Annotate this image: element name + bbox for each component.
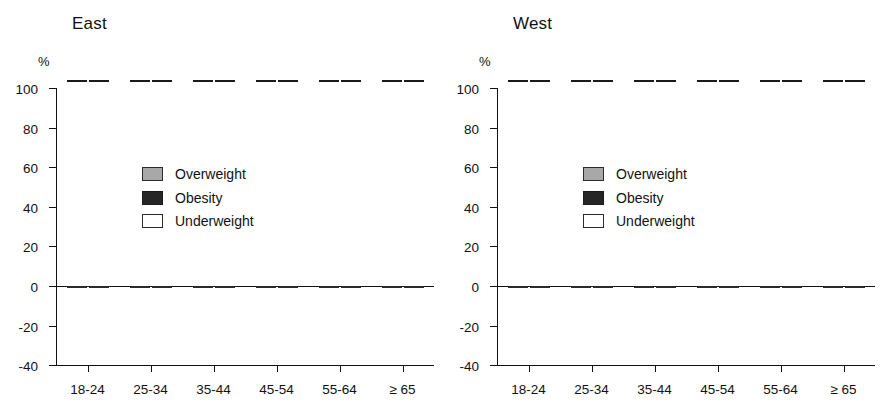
- y-axis-tick-label: 60: [464, 161, 479, 176]
- y-unit-label-east: %: [38, 54, 50, 69]
- bar-segment-underweight: [404, 286, 424, 288]
- x-axis-tick: [718, 365, 719, 372]
- y-axis-tick-label: -20: [459, 319, 479, 334]
- bar-segment-underweight: [130, 286, 150, 288]
- x-axis-label: 55-64: [322, 382, 357, 397]
- bar-segment-underweight: [193, 286, 213, 288]
- panel-east: East % 100806040200-20-40 Overweight Obe…: [0, 0, 442, 409]
- bar-18-24-series2: [89, 80, 109, 365]
- y-axis-tick: 40: [490, 207, 497, 208]
- legend-swatch-obesity-icon: [583, 191, 604, 205]
- bar-segment-underweight: [760, 286, 780, 288]
- legend-label-overweight: Overweight: [616, 166, 687, 182]
- bar-segment-underweight: [697, 286, 717, 288]
- x-axis-tick: [214, 365, 215, 372]
- bar-segment-obesity: [593, 80, 613, 82]
- y-axis-tick-label: 80: [23, 121, 38, 136]
- legend-label-underweight: Underweight: [616, 213, 695, 229]
- bar-55-64-series2: [782, 80, 802, 365]
- bar-segment-underweight: [215, 286, 235, 288]
- bar-segment-obesity: [130, 80, 150, 82]
- bar-segment-obesity: [760, 80, 780, 82]
- x-axis-label: ≥ 65: [389, 382, 415, 397]
- legend-label-overweight: Overweight: [175, 166, 246, 182]
- y-axis-tick-label: 20: [464, 240, 479, 255]
- bar-55-64-series1: [319, 80, 339, 365]
- legend-swatch-overweight-icon: [583, 167, 604, 181]
- panel-title-west: West: [513, 14, 552, 34]
- bar-segment-underweight: [845, 286, 865, 288]
- y-axis-tick-label: 20: [23, 240, 38, 255]
- x-axis-label: 35-44: [637, 382, 672, 397]
- bar-segment-obesity: [382, 80, 402, 82]
- y-axis-tick-label: -40: [18, 359, 38, 374]
- y-axis-tick: 0: [490, 286, 497, 287]
- bar-segment-obesity: [697, 80, 717, 82]
- legend-item-overweight: Overweight: [583, 164, 695, 184]
- bar-segment-underweight: [341, 286, 361, 288]
- legend-swatch-obesity-icon: [142, 191, 163, 205]
- x-axis-label: 35-44: [196, 382, 231, 397]
- bar-segment-underweight: [593, 286, 613, 288]
- y-axis-tick: 80: [49, 128, 56, 129]
- y-axis-tick: 20: [490, 246, 497, 247]
- bar-segment-underweight: [782, 286, 802, 288]
- x-axis-label: 25-34: [133, 382, 168, 397]
- y-axis-tick: 100: [49, 88, 56, 89]
- bar-segment-obesity: [530, 80, 550, 82]
- plot-area-west: 100806040200-20-40 Overweight Obesity Un…: [497, 80, 875, 375]
- bar-segment-obesity: [845, 80, 865, 82]
- legend-item-underweight: Underweight: [142, 211, 254, 231]
- plot-area-east: 100806040200-20-40 Overweight Obesity Un…: [56, 80, 434, 375]
- y-unit-label-west: %: [479, 54, 491, 69]
- y-axis-tick-label: 100: [15, 82, 38, 97]
- bar-segment-obesity: [278, 80, 298, 82]
- bar-18-24-series1: [67, 80, 87, 365]
- x-axis-tick: [844, 365, 845, 372]
- y-axis-tick: 60: [49, 167, 56, 168]
- bar-18-24-series1: [508, 80, 528, 365]
- bar-segment-obesity: [634, 80, 654, 82]
- legend-item-underweight: Underweight: [583, 211, 695, 231]
- x-axis-label: 18-24: [511, 382, 546, 397]
- bar-segment-obesity: [67, 80, 87, 82]
- x-axis-label: 18-24: [70, 382, 105, 397]
- bar-segment-underweight: [382, 286, 402, 288]
- legend-label-obesity: Obesity: [175, 190, 222, 206]
- bar-65-series2: [845, 80, 865, 365]
- y-axis-tick: 40: [49, 207, 56, 208]
- bar-18-24-series2: [530, 80, 550, 365]
- bar-segment-obesity: [571, 80, 591, 82]
- y-axis-tick-label: 100: [456, 82, 479, 97]
- bar-45-54-series2: [278, 80, 298, 365]
- bar-65-series1: [823, 80, 843, 365]
- bar-segment-underweight: [67, 286, 87, 288]
- bar-segment-obesity: [193, 80, 213, 82]
- bar-segment-underweight: [634, 286, 654, 288]
- bar-segment-obesity: [719, 80, 739, 82]
- x-axis-label: 45-54: [259, 382, 294, 397]
- bar-segment-obesity: [319, 80, 339, 82]
- y-axis-tick-label: 0: [30, 280, 38, 295]
- x-axis-label: 55-64: [763, 382, 798, 397]
- bar-segment-obesity: [89, 80, 109, 82]
- bar-45-54-series1: [256, 80, 276, 365]
- bar-segment-obesity: [404, 80, 424, 82]
- x-axis-tick: [340, 365, 341, 372]
- x-axis-label: 45-54: [700, 382, 735, 397]
- y-axis-tick: -40: [49, 365, 56, 366]
- legend-label-underweight: Underweight: [175, 213, 254, 229]
- y-axis-tick: -20: [490, 326, 497, 327]
- bar-segment-underweight: [571, 286, 591, 288]
- legend-swatch-underweight-icon: [583, 214, 604, 228]
- y-axis-tick-label: -40: [459, 359, 479, 374]
- bar-segment-underweight: [719, 286, 739, 288]
- y-axis-tick: 60: [490, 167, 497, 168]
- y-axis-tick-label: 40: [23, 200, 38, 215]
- legend-label-obesity: Obesity: [616, 190, 663, 206]
- bar-segment-underweight: [656, 286, 676, 288]
- bar-65-series2: [404, 80, 424, 365]
- x-axis-tick: [151, 365, 152, 372]
- y-axis-tick-label: 40: [464, 200, 479, 215]
- legend-item-obesity: Obesity: [142, 188, 254, 208]
